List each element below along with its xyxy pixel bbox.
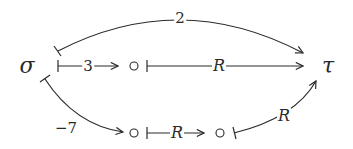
edge-label-R-mid: R [212,58,226,74]
node-sigma: σ [18,55,35,77]
edge-label-3: 3 [82,59,94,74]
edge-label-minus-7: −7 [54,121,78,136]
edge-bottom-tau [234,81,316,133]
edge-label-2: 2 [174,11,186,26]
node-tau: τ [321,55,335,77]
tee-bottom-left [40,75,50,82]
commutative-diagram: σ τ 2 3 R −7 R R [0,0,353,149]
node-mid-bottom-2-circle [216,129,224,137]
node-mid-top-circle [130,62,138,70]
edge-label-R-right: R [277,108,291,124]
edge-label-R-bottom: R [170,125,184,141]
node-mid-bottom-1-circle [130,129,138,137]
tee-top [54,46,61,56]
